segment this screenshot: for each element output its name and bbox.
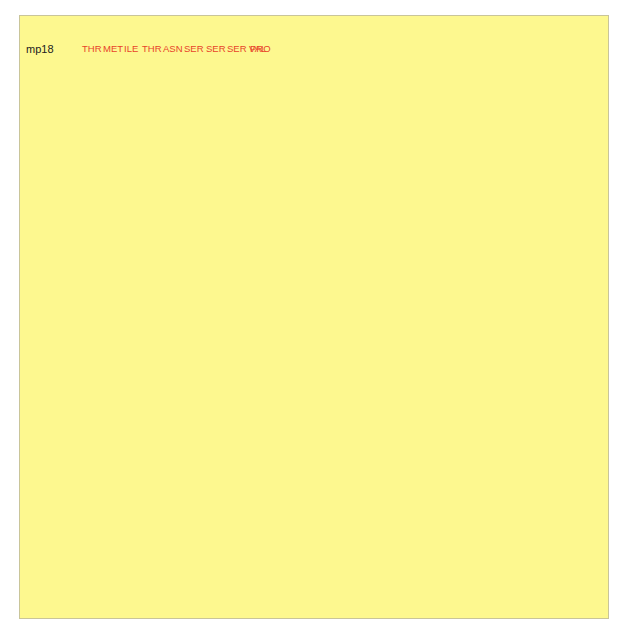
aa: ASN [163, 43, 183, 54]
aa: THR [82, 43, 102, 54]
mp18-label: mp18 [26, 43, 54, 55]
mp18-amino-acids-b: PRO [250, 43, 271, 54]
aa: ILE [124, 43, 138, 54]
aa: SER [184, 43, 204, 54]
aa: PRO [250, 43, 271, 54]
mp18-amino-acids: THR MET ILE THR ASN SER SER SER VAL [82, 43, 266, 54]
aa: THR [142, 43, 162, 54]
aa: MET [103, 43, 123, 54]
m13-map-diagram: mp18 THR MET ILE THR ASN SER SER SER VAL… [0, 0, 630, 632]
aa: SER [227, 43, 247, 54]
aa: SER [206, 43, 226, 54]
